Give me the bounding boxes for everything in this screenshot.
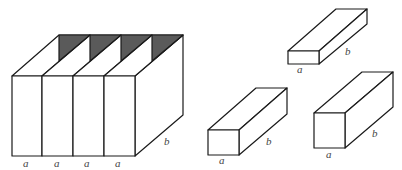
tall-box-label-b: b [372,127,378,139]
big-box-panel-2 [42,76,73,156]
medium-box-label-a: a [219,154,225,166]
big-box-label-a-4: a [115,157,121,169]
tall-box-label-a: a [326,148,332,160]
medium-box-front-face [208,130,239,155]
medium-box-label-b: b [266,135,272,147]
big-box-panel-1 [12,76,42,156]
big-box-label-a-1: a [23,157,29,169]
big-box: a a a a b [12,35,183,169]
flat-box-label-b: b [345,45,351,57]
big-box-label-a-3: a [84,157,90,169]
big-box-label-a-2: a [54,157,60,169]
flat-box-front-face [288,51,319,64]
big-box-label-b: b [164,135,170,147]
flat-box: a b [288,9,367,75]
big-box-panel-3 [73,76,104,156]
tall-box-front-face [314,113,345,148]
diagram-canvas: a a a a b a b a b a b [0,0,402,170]
flat-box-label-a: a [297,63,303,75]
big-box-panel-4 [104,76,135,156]
tall-box: a b [314,72,393,160]
medium-box: a b [208,88,287,166]
